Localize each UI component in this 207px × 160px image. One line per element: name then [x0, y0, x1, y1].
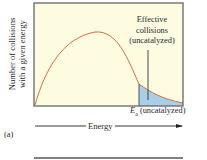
- y-axis-label: Number of collisions with a given energy: [2, 4, 32, 104]
- ea-note: (uncatalyzed): [140, 106, 186, 115]
- annotation-line3: (uncatalyzed): [120, 36, 184, 47]
- ea-subscript: a: [135, 111, 138, 117]
- y-axis-label-line1: Number of collisions: [7, 4, 17, 104]
- annotation-line2: collisions: [120, 26, 184, 37]
- effective-collisions-annotation: Effective collisions (uncatalyzed): [120, 15, 184, 47]
- ea-label: Ea (uncatalyzed): [130, 106, 185, 117]
- panel-label: (a): [4, 130, 13, 139]
- arrow-head-icon: [176, 124, 183, 128]
- y-axis-label-line2: with a given energy: [17, 4, 27, 104]
- x-axis-label: Energy: [86, 121, 115, 131]
- annotation-line1: Effective: [120, 15, 184, 26]
